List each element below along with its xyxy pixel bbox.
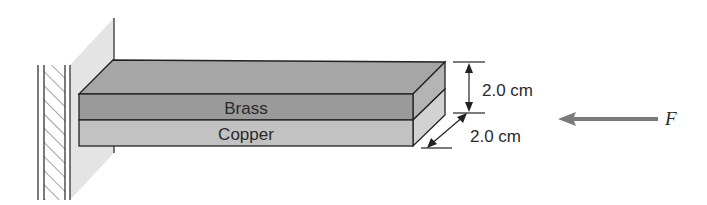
bar: Brass Copper (79, 60, 445, 146)
copper-label: Copper (218, 125, 274, 144)
height-label: 2.0 cm (482, 81, 533, 100)
arrowhead-lower-icon (427, 138, 437, 148)
arrowhead-upper-icon (457, 113, 467, 123)
brass-label: Brass (224, 99, 267, 118)
arrowhead-up-icon (465, 63, 473, 73)
depth-label: 2.0 cm (470, 127, 521, 146)
arrowhead-down-icon (465, 102, 473, 112)
height-dimension: 2.0 cm (453, 62, 533, 113)
force-label: F (664, 108, 677, 129)
diagram-canvas: Brass Copper 2.0 cm 2.0 cm F (0, 0, 707, 205)
bar-top-face (79, 60, 445, 94)
fixed-wall (38, 65, 70, 200)
force-arrow: F (558, 108, 677, 129)
